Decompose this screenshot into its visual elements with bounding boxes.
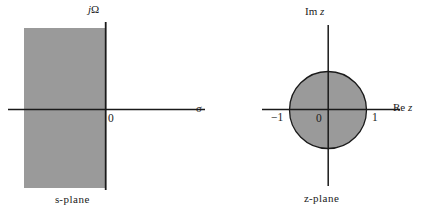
s-plane-graphic — [0, 0, 220, 220]
s-plane-jomega-axis-label: jΩ — [88, 4, 99, 15]
s-plane-sigma-axis-label: σ — [196, 103, 202, 114]
s-plane-panel: jΩ σ 0 s-plane — [0, 0, 220, 220]
z-plane-caption-rest: -plane — [309, 192, 339, 204]
z-plane-origin-label: 0 — [316, 113, 322, 125]
s-plane-caption: s-plane — [55, 193, 90, 205]
figure-canvas: jΩ σ 0 s-plane Im z Re z −1 0 1 z-plane — [0, 0, 440, 220]
z-plane-im-variable: z — [320, 5, 324, 17]
z-plane-re-prefix: Re — [393, 101, 405, 113]
z-plane-im-prefix: Im — [305, 5, 317, 17]
z-plane-re-variable: z — [408, 101, 412, 113]
s-plane-caption-rest: -plane — [59, 193, 89, 205]
z-plane-imaginary-axis-label: Im z — [305, 6, 324, 17]
s-plane-jomega-label-omega: Ω — [91, 3, 99, 15]
z-plane-caption: z-plane — [304, 192, 339, 204]
z-plane-real-axis-label: Re z — [393, 102, 412, 113]
z-plane-tick-label-minus-one: −1 — [271, 112, 283, 124]
s-plane-origin-label: 0 — [108, 113, 114, 125]
s-plane-shaded-region — [24, 28, 106, 188]
z-plane-tick-label-one: 1 — [372, 112, 378, 124]
z-plane-panel: Im z Re z −1 0 1 z-plane — [220, 0, 440, 220]
